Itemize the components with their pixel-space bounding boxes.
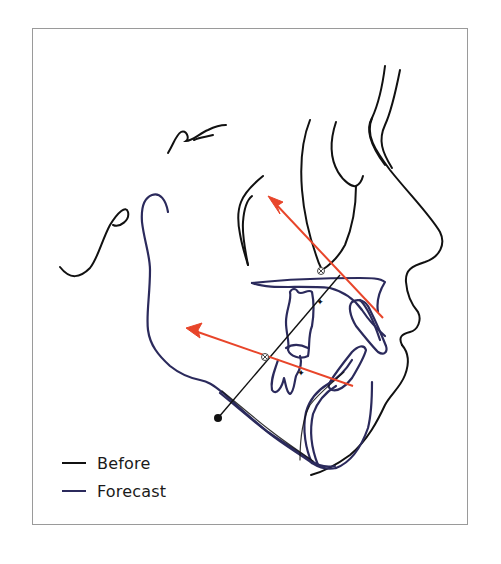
legend-label-forecast: Forecast bbox=[97, 482, 166, 501]
gonion-point-marker bbox=[214, 414, 222, 422]
legend: Before Forecast bbox=[62, 449, 166, 505]
legend-item-forecast: Forecast bbox=[62, 477, 166, 505]
legend-label-before: Before bbox=[97, 454, 151, 473]
forecast-mandible bbox=[142, 194, 387, 468]
before-line-swatch-icon bbox=[62, 462, 86, 464]
star-marker-upper: ✦ bbox=[316, 297, 324, 307]
upper-landmark-icon bbox=[318, 268, 325, 275]
lower-arrowhead-icon bbox=[186, 323, 202, 338]
cranial-marks bbox=[60, 125, 263, 276]
lower-landmark-icon bbox=[262, 354, 269, 361]
upper-incisor-movement-vector bbox=[272, 200, 383, 318]
forecast-line-swatch-icon bbox=[62, 490, 86, 492]
movement-vectors bbox=[186, 196, 383, 386]
legend-item-before: Before bbox=[62, 449, 166, 477]
upper-arrowhead-icon bbox=[268, 196, 283, 214]
